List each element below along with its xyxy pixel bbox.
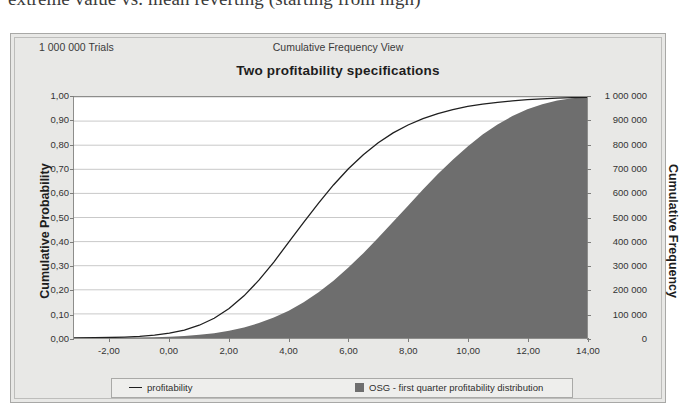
y-axis-right-tick-label: 300 000 xyxy=(593,260,647,271)
y-axis-right-tick-mark xyxy=(587,120,591,121)
legend-line-marker-icon xyxy=(129,387,142,388)
y-axis-left-tick-label: 0,50 xyxy=(27,212,69,223)
y-axis-left-tick-label: 1,00 xyxy=(27,90,69,101)
y-axis-right-tick-mark xyxy=(587,193,591,194)
legend-item-profitability: profitability xyxy=(129,382,192,393)
y-axis-right-tick-label: 900 000 xyxy=(593,114,647,125)
plot-area xyxy=(73,96,588,339)
x-axis-tick-mark xyxy=(109,338,110,342)
y-axis-right-tick-mark xyxy=(587,96,591,97)
y-axis-left-tick-label: 0,10 xyxy=(27,309,69,320)
y-axis-left-tick-label: 0,80 xyxy=(27,139,69,150)
page-heading: extreme value vs. mean reverting (starti… xyxy=(8,0,668,14)
y-axis-right-tick-label: 0 xyxy=(593,333,647,344)
y-axis-left-tick-mark xyxy=(70,266,74,267)
x-axis-tick-mark xyxy=(408,338,409,342)
y-axis-left-tick-mark xyxy=(70,169,74,170)
y-axis-left-tick-mark xyxy=(70,315,74,316)
y-axis-right-tick-mark xyxy=(587,145,591,146)
y-axis-right-tick-label: 500 000 xyxy=(593,212,647,223)
y-axis-right-title: Cumulative Frequency xyxy=(666,121,680,341)
y-axis-right-tick-label: 100 000 xyxy=(593,309,647,320)
y-axis-left-tick-label: 0,20 xyxy=(27,284,69,295)
x-axis-tick-label: 4,00 xyxy=(269,345,309,356)
x-axis-tick-label: 2,00 xyxy=(209,345,249,356)
y-axis-right-tick-label: 1 000 000 xyxy=(593,90,647,101)
x-axis-tick-mark xyxy=(348,338,349,342)
chart-card-inner-border: 1 000 000 Trials Cumulative Frequency Vi… xyxy=(14,37,662,399)
y-axis-right-tick-label: 200 000 xyxy=(593,284,647,295)
y-axis-right-tick-label: 800 000 xyxy=(593,139,647,150)
legend-label-profitability: profitability xyxy=(147,382,192,393)
x-axis-tick-mark xyxy=(229,338,230,342)
y-axis-left-tick-mark xyxy=(70,290,74,291)
chart-card: 1 000 000 Trials Cumulative Frequency Vi… xyxy=(10,33,666,403)
x-axis-tick-mark xyxy=(468,338,469,342)
y-axis-left-tick-mark xyxy=(70,145,74,146)
y-axis-left-tick-mark xyxy=(70,218,74,219)
x-axis-tick-mark xyxy=(528,338,529,342)
y-axis-right-tick-mark xyxy=(587,290,591,291)
x-axis-tick-label: 0,00 xyxy=(149,345,189,356)
y-axis-right-tick-label: 600 000 xyxy=(593,187,647,198)
y-axis-left-tick-label: 0,70 xyxy=(27,163,69,174)
y-axis-right-tick-mark xyxy=(587,169,591,170)
y-axis-right-tick-label: 700 000 xyxy=(593,163,647,174)
y-axis-right-tick-mark xyxy=(587,266,591,267)
legend-label-osg-distribution: OSG - first quarter profitability distri… xyxy=(369,382,543,393)
chart-title: Two profitability specifications xyxy=(15,63,661,78)
legend-item-osg-distribution: OSG - first quarter profitability distri… xyxy=(355,382,543,393)
y-axis-left-tick-label: 0,40 xyxy=(27,236,69,247)
x-axis-tick-mark xyxy=(289,338,290,342)
legend-swatch-marker-icon xyxy=(355,383,364,392)
chart-legend: profitability OSG - first quarter profit… xyxy=(111,378,573,398)
y-axis-left-tick-mark xyxy=(70,193,74,194)
x-axis-tick-mark xyxy=(169,338,170,342)
x-axis-tick-label: 8,00 xyxy=(388,345,428,356)
y-axis-left-tick-mark xyxy=(70,120,74,121)
y-axis-left-tick-label: 0,30 xyxy=(27,260,69,271)
chart-header: 1 000 000 Trials Cumulative Frequency Vi… xyxy=(15,38,661,60)
x-axis-tick-label: 14,00 xyxy=(568,345,608,356)
y-axis-right-tick-mark xyxy=(587,315,591,316)
y-axis-left-tick-mark xyxy=(70,339,74,340)
y-axis-left-tick-mark xyxy=(70,242,74,243)
y-axis-right-tick-label: 400 000 xyxy=(593,236,647,247)
y-axis-left-tick-label: 0,60 xyxy=(27,187,69,198)
x-axis-tick-label: -2,00 xyxy=(89,345,129,356)
view-mode-label: Cumulative Frequency View xyxy=(15,41,661,53)
y-axis-left-tick-mark xyxy=(70,96,74,97)
y-axis-left-tick-label: 0,90 xyxy=(27,114,69,125)
x-axis-tick-mark xyxy=(588,338,589,342)
y-axis-right-tick-mark xyxy=(587,218,591,219)
y-axis-right-tick-mark xyxy=(587,242,591,243)
plot-svg xyxy=(74,97,587,338)
x-axis-tick-label: 12,00 xyxy=(508,345,548,356)
x-axis-tick-label: 10,00 xyxy=(448,345,488,356)
y-axis-left-tick-label: 0,00 xyxy=(27,333,69,344)
x-axis-tick-label: 6,00 xyxy=(328,345,368,356)
